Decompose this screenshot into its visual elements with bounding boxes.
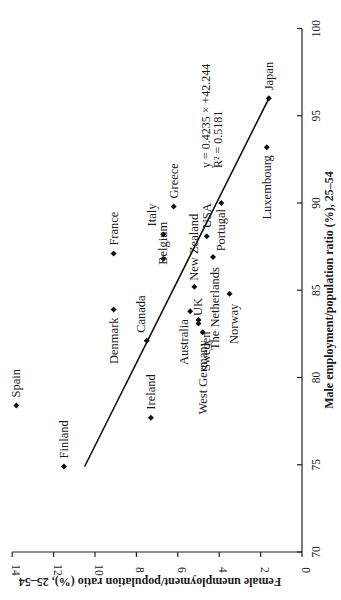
point-label: The Netherlands	[208, 267, 222, 350]
point-label: Canada	[134, 295, 148, 333]
x-tick-label: 90	[310, 197, 322, 209]
y-tick-label: 2	[259, 567, 271, 573]
point-label: Greece	[167, 163, 181, 199]
x-tick-label: 100	[310, 20, 322, 38]
axes: 70758085909510002468101214Male employmen…	[10, 20, 336, 589]
point-labels: SpainFinlandIrelandDenmarkCanadaFranceBe…	[9, 61, 276, 458]
y-tick-label: 12	[52, 564, 64, 576]
point-label: Norway	[227, 303, 241, 344]
point-label: Finland	[57, 420, 71, 459]
y-axis-title: Female unemployment/population ratio (%)…	[19, 575, 281, 589]
point-label: France	[107, 211, 121, 245]
trend-line	[85, 98, 269, 466]
x-tick-label: 75	[310, 459, 322, 471]
point-label: Japan	[262, 61, 276, 90]
x-tick-label: 95	[310, 110, 322, 122]
y-tick-label: 0	[300, 567, 312, 573]
data-point	[266, 95, 272, 101]
data-point	[218, 200, 224, 206]
point-label: Italy	[145, 203, 159, 227]
x-tick-label: 80	[310, 372, 322, 384]
trendline	[85, 98, 269, 466]
x-axis-title: Male employment/population ratio (%), 25…	[322, 171, 336, 409]
data-point	[227, 291, 233, 297]
y-tick-label: 14	[10, 564, 22, 576]
point-label: Luxembourg	[260, 154, 274, 219]
data-point	[111, 251, 117, 257]
data-point	[204, 233, 210, 239]
point-label: USA	[200, 203, 214, 228]
x-tick-label: 70	[310, 546, 322, 558]
y-tick-label: 8	[134, 567, 146, 573]
data-point	[264, 144, 270, 150]
y-tick-label: 6	[176, 567, 188, 573]
data-point	[111, 306, 117, 312]
r-squared-label: R² = 0.5181	[211, 111, 225, 168]
x-tick-label: 85	[310, 284, 322, 296]
data-point	[191, 284, 197, 290]
point-label: Belgium	[156, 222, 170, 265]
data-point	[13, 402, 19, 408]
chart-canvas: 70758085909510002468101214Male employmen…	[0, 0, 341, 600]
equation-annotation: y = 0.4235 × +42.244R² = 0.5181	[199, 64, 225, 168]
y-tick-label: 10	[93, 564, 105, 576]
point-label: Australia	[177, 319, 191, 365]
data-point	[61, 463, 67, 469]
point-label: Spain	[9, 368, 23, 397]
data-point	[171, 203, 177, 209]
data-point	[196, 320, 202, 326]
data-points	[13, 95, 272, 469]
point-label: Denmark	[107, 317, 121, 364]
point-label: Ireland	[144, 373, 158, 409]
scatter-chart: 70758085909510002468101214Male employmen…	[0, 0, 341, 600]
data-point	[148, 415, 154, 421]
point-label: Portugal	[214, 208, 228, 251]
point-label: UK	[192, 298, 206, 316]
data-point	[210, 254, 216, 260]
y-tick-label: 4	[217, 567, 229, 573]
point-label: West Germany	[196, 339, 210, 414]
